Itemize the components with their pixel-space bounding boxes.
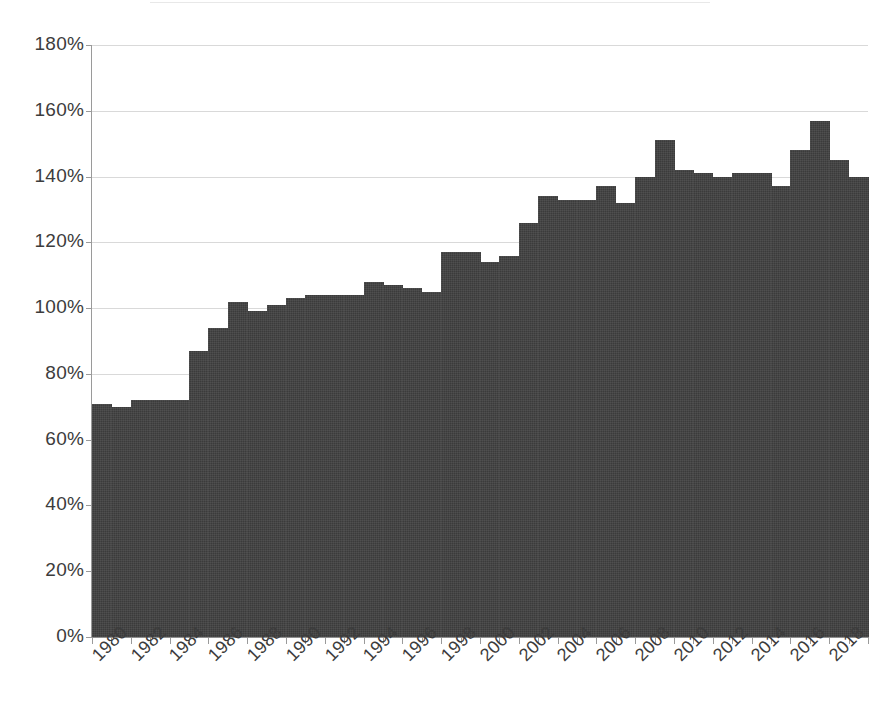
bar <box>422 292 442 637</box>
y-axis-tick-label: 40% <box>45 493 84 515</box>
bar-chart: 0%20%40%60%80%100%120%140%160%180% 19801… <box>0 0 890 704</box>
x-axis-labels: 1980198219841986198819901992199419961998… <box>0 645 890 704</box>
y-axis-tick-label: 80% <box>45 362 84 384</box>
bar <box>92 404 112 638</box>
bar <box>247 311 267 637</box>
bar <box>402 288 422 637</box>
x-axis-tick-mark <box>752 638 753 644</box>
x-axis-tick-mark <box>92 638 93 644</box>
bar <box>655 140 675 637</box>
x-axis-tick-mark <box>208 638 209 644</box>
bar <box>344 295 364 637</box>
bar <box>616 203 636 637</box>
bar <box>131 400 151 637</box>
bar <box>480 262 500 637</box>
y-axis-tick-label: 100% <box>35 296 84 318</box>
bar <box>170 400 190 637</box>
bar <box>810 121 830 637</box>
x-axis-tick-mark <box>674 638 675 644</box>
bar <box>325 295 345 637</box>
y-axis-tick-label: 160% <box>35 99 84 121</box>
bar <box>305 295 325 637</box>
bar <box>499 256 519 638</box>
x-axis-tick-mark <box>558 638 559 644</box>
bar <box>713 177 733 637</box>
x-axis-tick-mark <box>286 638 287 644</box>
bar <box>461 252 481 637</box>
x-axis-tick-mark <box>325 638 326 644</box>
bar <box>364 282 384 637</box>
bar-series <box>92 45 868 637</box>
y-axis-tick-label: 140% <box>35 165 84 187</box>
x-axis-tick-mark <box>596 638 597 644</box>
x-axis-tick-mark <box>635 638 636 644</box>
bar <box>752 173 772 637</box>
bar <box>771 186 791 637</box>
plot-area <box>92 45 868 637</box>
bar <box>150 400 170 637</box>
bar <box>577 200 597 637</box>
y-axis-tick-label: 20% <box>45 559 84 581</box>
x-axis-tick-mark <box>829 638 830 644</box>
x-axis-tick-mark <box>364 638 365 644</box>
y-axis-tick-label: 120% <box>35 230 84 252</box>
x-axis-tick-mark <box>170 638 171 644</box>
bar <box>635 177 655 637</box>
y-axis-tick-label: 180% <box>35 33 84 55</box>
bar <box>790 150 810 637</box>
x-axis-tick-mark <box>131 638 132 644</box>
x-axis-tick-mark <box>247 638 248 644</box>
bar <box>732 173 752 637</box>
x-axis-tick-mark <box>713 638 714 644</box>
bar <box>674 170 694 637</box>
bar <box>849 177 869 637</box>
bar <box>538 196 558 637</box>
bar <box>519 223 539 637</box>
x-axis-tick-mark <box>519 638 520 644</box>
scan-artifact-line <box>150 2 710 3</box>
y-axis-tick-label: 60% <box>45 428 84 450</box>
bar <box>111 407 131 637</box>
x-axis-tick-mark <box>790 638 791 644</box>
y-axis-labels: 0%20%40%60%80%100%120%140%160%180% <box>0 45 84 637</box>
bar <box>208 328 228 637</box>
x-axis-tick-mark <box>480 638 481 644</box>
bar <box>267 305 287 637</box>
bar <box>189 351 209 637</box>
x-axis-tick-mark <box>868 638 869 644</box>
bar <box>829 160 849 637</box>
bar <box>693 173 713 637</box>
bar <box>228 302 248 637</box>
bar <box>558 200 578 637</box>
x-axis-tick-mark <box>441 638 442 644</box>
bar <box>383 285 403 637</box>
bar <box>596 186 616 637</box>
bar <box>286 298 306 637</box>
bar <box>441 252 461 637</box>
y-axis-tick-label: 0% <box>56 625 84 647</box>
x-axis-tick-mark <box>402 638 403 644</box>
